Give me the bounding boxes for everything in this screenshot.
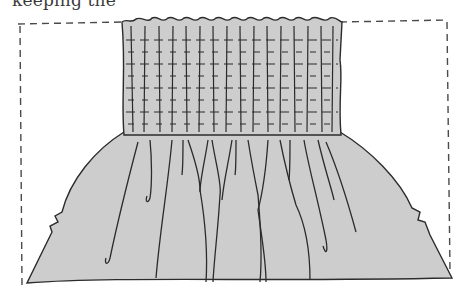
smocked-band [122,17,342,135]
smocking-illustration [0,0,462,291]
skirt-fabric [27,132,452,283]
